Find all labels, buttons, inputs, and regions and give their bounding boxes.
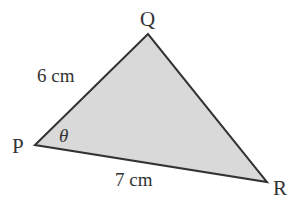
angle-label-theta: θ: [59, 125, 68, 146]
vertex-label-q: Q: [140, 7, 155, 31]
side-label-pr: 7 cm: [115, 169, 153, 190]
triangle-pqr: [35, 34, 267, 182]
side-label-pq: 6 cm: [37, 65, 75, 86]
vertex-label-p: P: [12, 134, 24, 158]
vertex-label-r: R: [273, 176, 287, 200]
triangle-diagram: Q P R 6 cm 7 cm θ: [0, 0, 295, 208]
